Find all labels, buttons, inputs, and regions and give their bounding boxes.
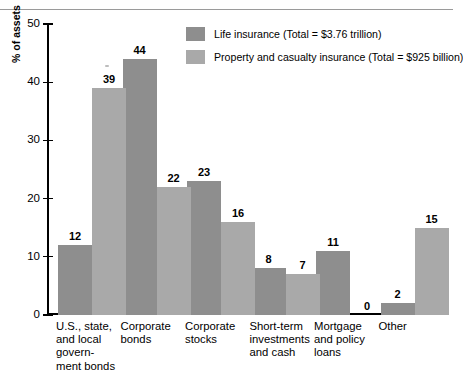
legend-item-0: Life insurance (Total = $3.76 trillion) [186, 27, 463, 41]
x-category-line: bonds [121, 333, 187, 346]
bar-value-label-series1-cat2: 16 [221, 208, 255, 219]
x-category-label-2: Corporatestocks [185, 320, 251, 346]
y-tick-50 [43, 23, 53, 24]
y-tick-label-30: 30 [27, 135, 40, 147]
bar-value-label-series1-cat3: 7 [286, 260, 320, 271]
y-tick-label-40: 40 [27, 76, 40, 88]
legend-item-1: Property and casualty insurance (Total =… [186, 50, 463, 64]
bar-value-label-series1-cat1: 22 [157, 173, 191, 184]
legend-swatch-1 [186, 50, 205, 64]
bar-series1-cat2 [221, 222, 255, 315]
x-category-line: U.S., state, [56, 320, 122, 333]
bar-series0-cat5 [381, 303, 415, 315]
x-category-label-4: Mortgageand policyloans [314, 320, 380, 360]
bar-series0-cat2 [187, 181, 221, 315]
bar-value-label-series0-cat4: 11 [316, 237, 350, 248]
y-axis-title: % of assets [10, 0, 22, 72]
x-category-line: Mortgage [314, 320, 380, 333]
x-category-label-0: U.S., state,and localgovern-ment bonds [56, 320, 122, 373]
bar-value-label-series0-cat2: 23 [187, 167, 221, 178]
x-category-line: Corporate [121, 320, 187, 333]
x-category-line: Corporate [185, 320, 251, 333]
y-tick-20 [43, 198, 53, 199]
x-axis-category-labels: U.S., state,and localgovern-ment bondsCo… [47, 320, 447, 384]
top-divider-rule [0, 9, 453, 10]
bar-value-label-series0-cat1: 44 [123, 45, 157, 56]
bar-value-label-series1-cat0: 39 [92, 74, 126, 85]
legend-label-1: Property and casualty insurance (Total =… [214, 52, 463, 63]
x-category-label-1: Corporatebonds [121, 320, 187, 346]
x-category-line: loans [314, 346, 380, 359]
bar-value-label-series1-cat4: 0 [350, 301, 384, 312]
bar-series0-cat3 [252, 268, 286, 315]
bar-series1-cat0 [92, 88, 126, 315]
legend-label-0: Life insurance (Total = $3.76 trillion) [214, 29, 382, 40]
x-category-line: govern- [56, 346, 122, 359]
x-category-label-5: Other [379, 320, 445, 333]
scan-artifact-speck [105, 65, 109, 67]
x-category-line: and local [56, 333, 122, 346]
chart-legend: Life insurance (Total = $3.76 trillion)P… [186, 27, 463, 73]
y-tick-10 [43, 256, 53, 257]
y-tick-0 [43, 314, 53, 315]
x-category-line: and policy [314, 333, 380, 346]
bar-series1-cat3 [286, 274, 320, 315]
x-category-line: Other [379, 320, 445, 333]
bar-series1-cat1 [157, 187, 191, 315]
x-category-line: Short-term [250, 320, 316, 333]
bar-series0-cat4 [316, 251, 350, 315]
bar-series0-cat1 [123, 59, 157, 315]
y-axis-line [47, 24, 49, 315]
y-tick-label-10: 10 [27, 251, 40, 263]
x-category-line: and cash [250, 346, 316, 359]
y-tick-label-0: 0 [34, 309, 40, 321]
x-category-label-3: Short-terminvestmentsand cash [250, 320, 316, 360]
bar-series1-cat5 [415, 228, 449, 315]
bar-value-label-series1-cat5: 15 [415, 214, 449, 225]
y-tick-40 [43, 82, 53, 83]
bar-series0-cat0 [58, 245, 92, 315]
bar-value-label-series0-cat3: 8 [252, 254, 286, 265]
y-tick-label-50: 50 [27, 18, 40, 30]
bar-value-label-series0-cat5: 2 [381, 289, 415, 300]
legend-swatch-0 [186, 27, 205, 41]
x-category-line: ment bonds [56, 360, 122, 373]
y-tick-label-20: 20 [27, 193, 40, 205]
y-tick-30 [43, 140, 53, 141]
x-category-line: investments [250, 333, 316, 346]
bar-value-label-series0-cat0: 12 [58, 231, 92, 242]
x-category-line: stocks [185, 333, 251, 346]
